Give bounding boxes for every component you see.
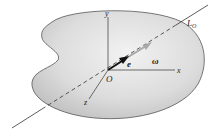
origin-label: O <box>106 74 113 84</box>
y-axis-label: y <box>104 9 109 18</box>
rigid-body-diagram: y x z O e ω LO <box>0 0 224 137</box>
e-label: e <box>127 59 131 69</box>
line-lo-lower <box>12 109 42 128</box>
rigid-body <box>32 11 204 119</box>
omega-label: ω <box>152 56 159 66</box>
line-lo-label: LO <box>186 18 197 29</box>
x-axis-label: x <box>176 66 181 75</box>
